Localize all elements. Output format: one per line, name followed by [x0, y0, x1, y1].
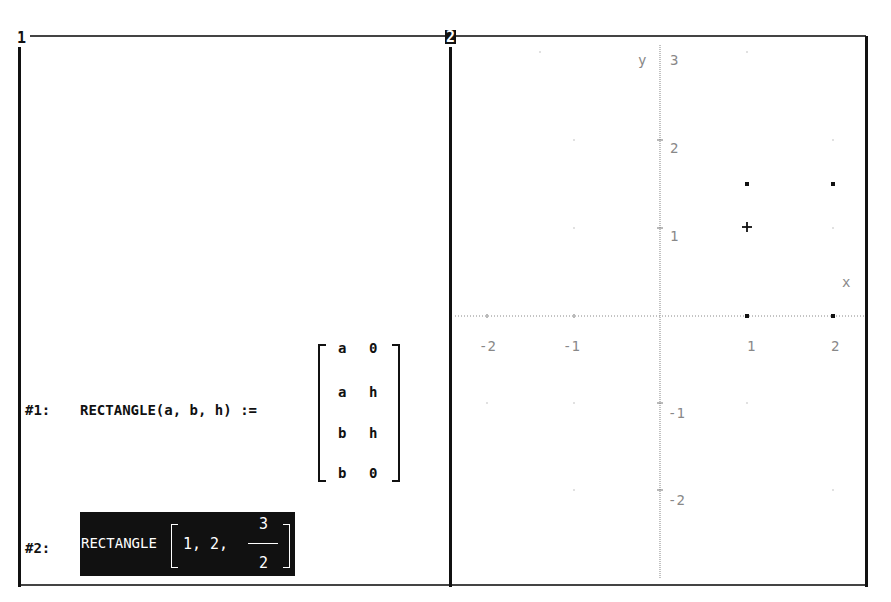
y-tick-label: 2	[670, 140, 678, 156]
y-axis-label: y	[638, 52, 646, 68]
point-1-1.5	[745, 182, 749, 186]
expression-2-args: 1, 2,	[183, 535, 228, 553]
x-tick-label: 2	[831, 338, 839, 354]
matrix-cell: 0	[369, 340, 377, 356]
matrix-cell: 0	[369, 465, 377, 481]
matrix-left-bracket	[318, 344, 326, 482]
expression-2-frac-den: 2	[259, 554, 268, 572]
expression-2-func: RECTANGLE	[81, 535, 157, 551]
expression-2-selected[interactable]: RECTANGLE 1, 2, 3 2	[80, 512, 295, 576]
expression-2-right-bracket	[283, 524, 290, 568]
algebra-window[interactable]	[21, 40, 449, 583]
expression-2-frac-num: 3	[259, 515, 268, 533]
y-tick-label: -1	[668, 405, 685, 421]
point-2-1.5	[831, 182, 835, 186]
expression-1-label[interactable]: #1:	[25, 402, 50, 418]
point-2-0	[831, 314, 835, 318]
matrix-cell: h	[369, 384, 377, 400]
matrix-cell: b	[338, 425, 346, 441]
window-2-right-border	[865, 36, 868, 587]
expression-1-lhs[interactable]: RECTANGLE(a, b, h) :=	[80, 402, 257, 418]
expression-1-matrix[interactable]: a 0 a h b h b 0	[318, 340, 400, 480]
x-axis-label: x	[842, 274, 850, 290]
point-1-0	[745, 314, 749, 318]
expression-2-label[interactable]: #2:	[25, 540, 50, 556]
y-tick-label: 1	[670, 228, 678, 244]
x-tick-label: -2	[479, 338, 496, 354]
matrix-cell: a	[338, 340, 346, 356]
expression-2-left-bracket	[171, 524, 178, 568]
crosshair-cursor-icon	[742, 222, 752, 232]
matrix-cell: b	[338, 465, 346, 481]
matrix-cell: h	[369, 425, 377, 441]
data-points	[745, 182, 835, 318]
expression-2-frac-bar	[248, 543, 278, 544]
plot-window[interactable]	[452, 40, 865, 583]
y-tick-label: -2	[668, 492, 685, 508]
matrix-cell: a	[338, 384, 346, 400]
y-tick-label: 3	[670, 52, 678, 68]
x-tick-label: -1	[563, 338, 580, 354]
window-bottom-border	[18, 584, 866, 586]
matrix-right-bracket	[392, 344, 400, 482]
plot-canvas[interactable]	[452, 40, 865, 583]
x-tick-label: 1	[747, 338, 755, 354]
